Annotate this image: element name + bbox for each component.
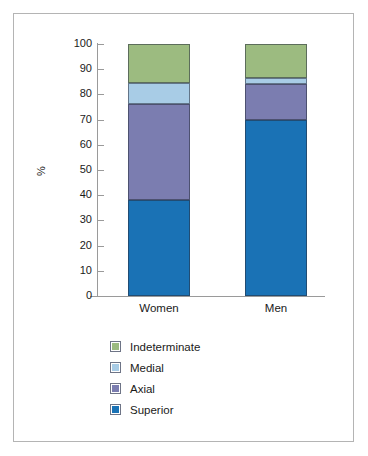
legend-label: Indeterminate: [130, 341, 200, 353]
legend-label: Medial: [130, 362, 164, 374]
y-tick-mark: [98, 44, 104, 45]
legend-item-medial[interactable]: Medial: [110, 358, 200, 377]
y-tick-label: 70: [64, 114, 92, 125]
y-tick-mark: [98, 94, 104, 95]
legend-label: Superior: [130, 404, 173, 416]
bar-segment-indeterminate: [128, 44, 190, 83]
y-tick-label: 0: [64, 290, 92, 301]
y-tick-label: 80: [64, 88, 92, 99]
y-tick-mark: [98, 145, 104, 146]
chart-figure: % 0102030405060708090100 WomenMen Indete…: [0, 0, 368, 456]
y-tick-label: 40: [64, 189, 92, 200]
y-axis-title: %: [35, 166, 47, 176]
y-tick-label: 30: [64, 214, 92, 225]
bar-segment-medial: [245, 78, 307, 84]
y-tick-mark: [98, 271, 104, 272]
x-tick-label-women: Women: [104, 302, 214, 314]
bar-segment-superior: [128, 200, 190, 296]
y-tick-label: 10: [64, 265, 92, 276]
bar-segment-superior: [245, 120, 307, 296]
y-tick-label: 50: [64, 164, 92, 175]
legend-swatch-icon: [110, 362, 121, 373]
y-tick-label: 20: [64, 240, 92, 251]
y-tick-mark: [98, 220, 104, 221]
y-tick-label: 100: [64, 38, 92, 49]
legend-swatch-icon: [110, 404, 121, 415]
y-tick-mark: [98, 120, 104, 121]
y-tick-mark: [98, 170, 104, 171]
x-tick-label-men: Men: [221, 302, 331, 314]
bar-segment-medial: [128, 83, 190, 104]
y-tick-mark: [98, 195, 104, 196]
y-tick-mark: [98, 69, 104, 70]
bar-segment-indeterminate: [245, 44, 307, 78]
chart-legend: IndeterminateMedialAxialSuperior: [110, 337, 200, 421]
bar-men: [245, 44, 307, 296]
y-tick-label: 90: [64, 63, 92, 74]
legend-item-axial[interactable]: Axial: [110, 379, 200, 398]
legend-label: Axial: [130, 383, 155, 395]
y-tick-mark: [98, 296, 104, 297]
legend-swatch-icon: [110, 383, 121, 394]
y-tick-label: 60: [64, 139, 92, 150]
bar-segment-axial: [245, 84, 307, 119]
bar-women: [128, 44, 190, 296]
bar-segment-axial: [128, 104, 190, 200]
y-tick-mark: [98, 246, 104, 247]
legend-item-indeterminate[interactable]: Indeterminate: [110, 337, 200, 356]
legend-swatch-icon: [110, 341, 121, 352]
legend-item-superior[interactable]: Superior: [110, 400, 200, 419]
x-axis-line: [90, 296, 325, 297]
